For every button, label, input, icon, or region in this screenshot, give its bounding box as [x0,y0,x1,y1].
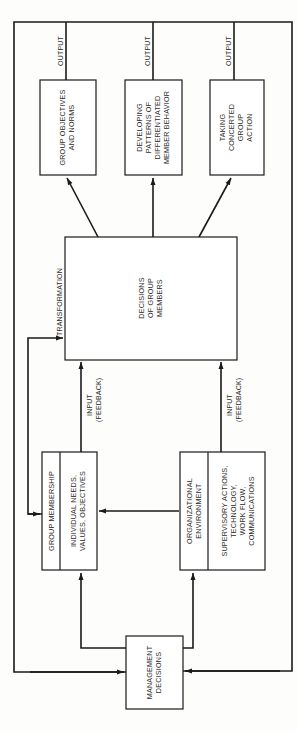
svg-text:GROUP OBJECTIVES: GROUP OBJECTIVES [58,89,67,165]
svg-text:CONCERTED: CONCERTED [227,104,236,151]
output-label-2: OUTPUT [144,36,151,66]
management-decisions-text: MANAGEMENT DECISIONS [145,645,163,699]
output-label-1: OUTPUT [57,36,64,66]
svg-text:GROUP: GROUP [236,114,245,141]
svg-text:ORGANIZATIONAL: ORGANIZATIONAL [185,478,194,544]
transformation-label: TRANSFORMATION [56,268,63,336]
svg-text:MANAGEMENT: MANAGEMENT [145,645,154,699]
svg-text:SUPERVISORY ACTIONS,: SUPERVISORY ACTIONS, [220,465,229,556]
svg-text:DECISIONS: DECISIONS [137,277,146,318]
svg-text:DEVELOPING: DEVELOPING [135,103,144,152]
svg-text:DECISIONS: DECISIONS [154,652,163,693]
group-membership-body: INDIVIDUAL NEEDS, VALUES, OBJECTIVES [69,471,87,551]
svg-text:COMMUNICATIONS: COMMUNICATIONS [247,476,256,545]
organizational-environment-header: ORGANIZATIONAL ENVIRONMENT [185,478,203,544]
svg-text:INPUT: INPUT [226,393,233,416]
svg-text:INDIVIDUAL NEEDS,: INDIVIDUAL NEEDS, [69,475,78,547]
svg-text:MEMBERS: MEMBERS [155,279,164,317]
svg-text:TECHNOLOGY,: TECHNOLOGY, [229,484,238,538]
input-label-left: INPUT (FEEDBACK) [86,378,103,422]
svg-text:TAKING: TAKING [218,114,227,142]
svg-text:WORK FLOW,: WORK FLOW, [238,487,247,536]
input-arrows [81,362,221,452]
svg-text:OF GROUP: OF GROUP [146,278,155,318]
decisions-text: DECISIONS OF GROUP MEMBERS [137,277,164,318]
svg-text:ENVIRONMENT: ENVIRONMENT [194,483,203,539]
svg-text:AND NORMS: AND NORMS [67,105,76,151]
svg-text:DIFFERENTIATED: DIFFERENTIATED [153,96,162,160]
group-membership-header: GROUP MEMBERSHIP [47,471,56,551]
svg-text:MEMBER BEHAVIOR: MEMBER BEHAVIOR [162,91,171,164]
svg-text:(FEEDBACK): (FEEDBACK) [235,378,243,422]
svg-text:ACTION: ACTION [245,113,254,141]
svg-text:INPUT: INPUT [86,393,93,416]
output-label-3: OUTPUT [225,36,232,66]
diagram-canvas: OUTPUT OUTPUT OUTPUT GROUP OBJECTIVES AN… [0,0,297,732]
decision-to-output-arrows [67,178,231,237]
svg-text:(FEEDBACK): (FEEDBACK) [95,378,103,422]
input-label-right: INPUT (FEEDBACK) [226,378,243,422]
svg-text:PATTERNS OF: PATTERNS OF [144,101,153,153]
svg-text:VALUES, OBJECTIVES: VALUES, OBJECTIVES [78,471,87,551]
group-behavior-flow-diagram: OUTPUT OUTPUT OUTPUT GROUP OBJECTIVES AN… [0,0,297,732]
